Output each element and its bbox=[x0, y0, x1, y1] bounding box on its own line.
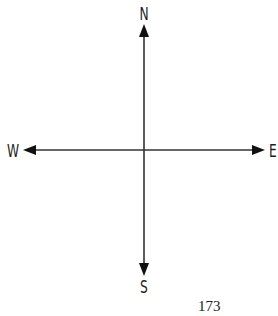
north-arrowhead-icon bbox=[139, 24, 149, 37]
east-arrowhead-icon bbox=[252, 145, 265, 155]
west-label: W bbox=[7, 142, 19, 162]
west-arrowhead-icon bbox=[23, 145, 36, 155]
south-label: S bbox=[140, 278, 148, 298]
compass-diagram: N S W E bbox=[0, 0, 278, 316]
east-label: E bbox=[269, 142, 277, 162]
north-label: N bbox=[139, 5, 148, 25]
page-number: 173 bbox=[198, 298, 221, 315]
south-arrowhead-icon bbox=[139, 263, 149, 276]
